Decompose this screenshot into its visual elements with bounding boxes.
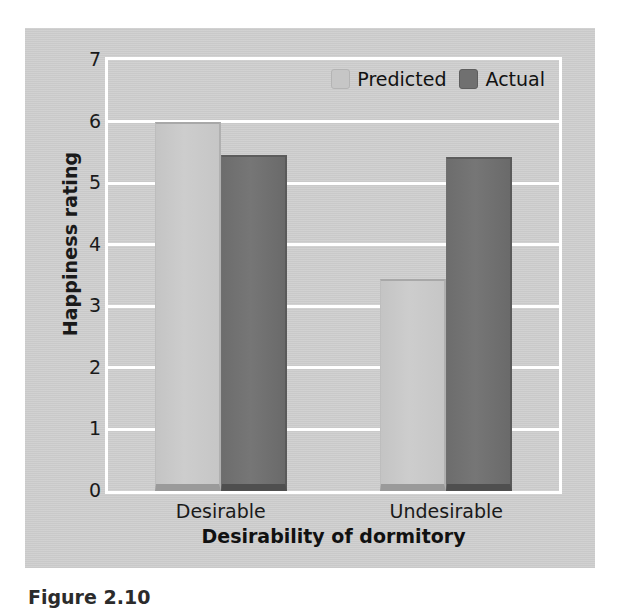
y-axis-tick-labels: 01234567 bbox=[75, 28, 101, 568]
bar-body bbox=[446, 157, 512, 491]
x-axis-title: Desirability of dormitory bbox=[105, 525, 562, 547]
x-tick-label: Desirable bbox=[176, 500, 266, 522]
figure-caption: Figure 2.10 bbox=[28, 586, 150, 608]
chart-legend: Predicted Actual bbox=[331, 68, 545, 90]
figure-panel: Happiness rating 01234567 Predicted Actu… bbox=[25, 28, 595, 568]
legend-entry-actual: Actual bbox=[459, 68, 545, 90]
y-tick-label: 7 bbox=[75, 50, 101, 69]
bar-desirable-actual bbox=[221, 155, 287, 491]
bar-body bbox=[155, 122, 221, 491]
bar-body bbox=[221, 155, 287, 491]
legend-label-actual: Actual bbox=[485, 68, 545, 90]
bar-desirable-predicted bbox=[155, 122, 221, 491]
y-tick-label: 1 bbox=[75, 419, 101, 438]
actual-swatch-icon bbox=[459, 69, 478, 89]
x-tick-label: Undesirable bbox=[390, 500, 503, 522]
y-tick-label: 3 bbox=[75, 296, 101, 315]
y-tick-label: 0 bbox=[75, 481, 101, 500]
bar-body bbox=[380, 279, 446, 491]
y-tick-label: 2 bbox=[75, 358, 101, 377]
predicted-swatch-icon bbox=[331, 69, 350, 89]
plot-area: Predicted Actual bbox=[105, 57, 562, 494]
bar-undesirable-predicted bbox=[380, 279, 446, 491]
legend-label-predicted: Predicted bbox=[357, 68, 446, 90]
x-axis-tick-labels: DesirableUndesirable bbox=[105, 500, 562, 526]
plot-inner: Predicted Actual bbox=[108, 60, 559, 491]
y-tick-label: 4 bbox=[75, 235, 101, 254]
legend-entry-predicted: Predicted bbox=[331, 68, 446, 90]
bar-undesirable-actual bbox=[446, 157, 512, 491]
y-tick-label: 6 bbox=[75, 112, 101, 131]
y-tick-label: 5 bbox=[75, 173, 101, 192]
